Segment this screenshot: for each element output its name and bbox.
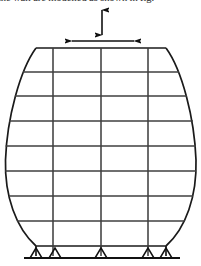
right-outer-column (166, 48, 196, 246)
dimension-arrow-group (72, 10, 134, 41)
figure-root: the wall are modelled as shown in fig. (0, 0, 201, 266)
support-2 (49, 248, 61, 258)
left-outer-column (5, 48, 36, 246)
structural-elevation-diagram (0, 0, 201, 266)
interior-columns (53, 48, 148, 256)
